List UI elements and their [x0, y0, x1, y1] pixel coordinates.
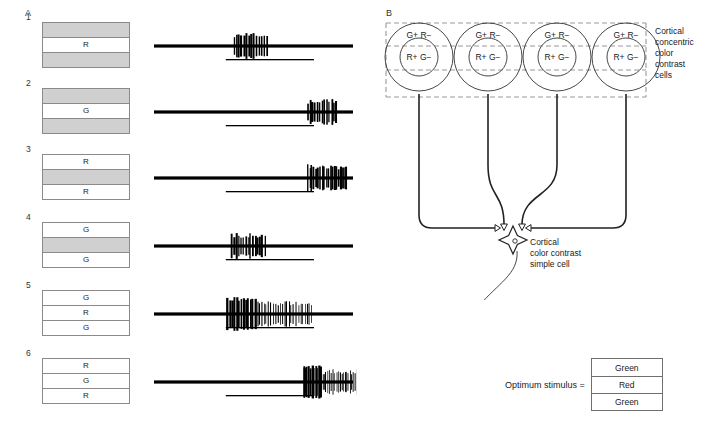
spike-trace: [152, 360, 352, 404]
optimum-stimulus-legend: Optimum stimulus = GreenRedGreen: [505, 358, 663, 411]
stimulus-box: RGR: [42, 358, 130, 404]
stimulus-box: GRG: [42, 290, 130, 336]
stimulus-band-white: G: [43, 291, 129, 305]
caption-line: color: [655, 48, 711, 59]
stimulus-band-gray: [43, 169, 129, 184]
stimulus-band-gray: [43, 118, 129, 133]
caption-line: Cortical: [655, 26, 711, 37]
optimum-stimulus-box: GreenRedGreen: [591, 358, 663, 411]
concentric-cell-center-label: R+ G−: [604, 52, 648, 63]
caption-line: color contrast: [530, 248, 620, 259]
caption-line: simple cell: [530, 259, 620, 270]
concentric-cell-surround-label: G+ R−: [397, 30, 441, 41]
concentric-cell-center-label: R+ G−: [466, 52, 510, 63]
stimulus-row-number: 6: [26, 348, 31, 358]
concentric-cell-surround-label: G+ R−: [604, 30, 648, 41]
stimulus-band-white: R: [43, 305, 129, 320]
concentric-cells-caption: Corticalconcentriccolorcontrastcells: [655, 26, 711, 81]
stimulus-row-number: 1: [26, 12, 31, 22]
caption-line: concentric: [655, 37, 711, 48]
stimulus-band-white: G: [43, 373, 129, 388]
concentric-cell-center-label: R+ G−: [535, 52, 579, 63]
stimulus-box: RR: [42, 154, 130, 200]
stimulus-row-number: 2: [26, 78, 31, 88]
concentric-cell-surround-label: G+ R−: [535, 30, 579, 41]
stimulus-band-gray: [43, 23, 129, 37]
stimulus-band-white: R: [43, 184, 129, 199]
optimum-stimulus-label: Optimum stimulus =: [505, 380, 585, 390]
simple-cell-caption: Corticalcolor contrastsimple cell: [530, 237, 620, 270]
stimulus-band-white: R: [43, 359, 129, 373]
legend-band: Red: [592, 376, 662, 393]
stimulus-band-white: G: [43, 223, 129, 237]
stimulus-band-white: G: [43, 252, 129, 267]
spike-trace: [152, 24, 352, 68]
concentric-cell-center-label: R+ G−: [397, 52, 441, 63]
stimulus-box: G: [42, 88, 130, 134]
legend-band: Green: [592, 359, 662, 376]
stimulus-box: R: [42, 22, 130, 68]
spike-trace: [152, 156, 352, 200]
stimulus-row-number: 5: [26, 280, 31, 290]
caption-line: Cortical: [530, 237, 620, 248]
spike-trace: [152, 224, 352, 268]
stimulus-band-gray: [43, 52, 129, 67]
stimulus-row-number: 4: [26, 212, 31, 222]
spike-trace: [152, 90, 352, 134]
stimulus-band-white: G: [43, 320, 129, 335]
caption-line: contrast: [655, 59, 711, 70]
stimulus-band-white: R: [43, 155, 129, 169]
stimulus-band-gray: [43, 237, 129, 252]
spike-trace: [152, 292, 352, 336]
stimulus-band-white: R: [43, 37, 129, 52]
stimulus-row-number: 3: [26, 144, 31, 154]
stimulus-band-white: G: [43, 103, 129, 118]
stimulus-band-gray: [43, 89, 129, 103]
concentric-cell-surround-label: G+ R−: [466, 30, 510, 41]
caption-line: cells: [655, 70, 711, 81]
legend-band: Green: [592, 393, 662, 410]
stimulus-band-white: R: [43, 388, 129, 403]
stimulus-box: GG: [42, 222, 130, 268]
